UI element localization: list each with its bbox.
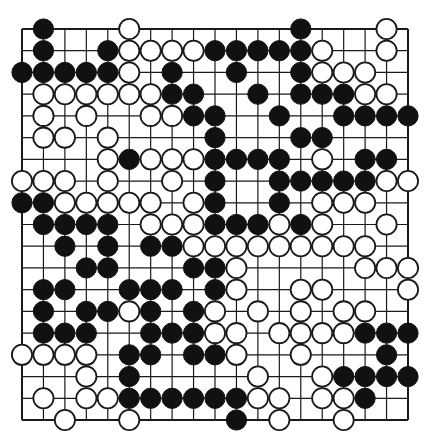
white-stone: [183, 149, 203, 169]
white-stone: [312, 280, 332, 300]
white-stone: [376, 84, 396, 104]
white-stone: [248, 236, 268, 256]
black-stone: [205, 258, 225, 278]
black-stone: [162, 280, 182, 300]
white-stone: [141, 41, 161, 61]
white-stone: [398, 258, 418, 278]
black-stone: [312, 84, 332, 104]
white-stone: [248, 301, 268, 321]
go-board[interactable]: [0, 0, 435, 443]
white-stone: [33, 84, 53, 104]
white-stone: [312, 214, 332, 234]
black-stone: [205, 214, 225, 234]
white-stone: [312, 366, 332, 386]
black-stone: [376, 106, 396, 126]
black-stone: [33, 62, 53, 82]
black-stone: [183, 345, 203, 365]
white-stone: [226, 323, 246, 343]
black-stone: [12, 62, 32, 82]
black-stone: [226, 388, 246, 408]
black-stone: [33, 193, 53, 213]
black-stone: [55, 280, 75, 300]
black-stone: [312, 171, 332, 191]
white-stone: [226, 280, 246, 300]
black-stone: [98, 214, 118, 234]
black-stone: [355, 171, 375, 191]
black-stone: [76, 214, 96, 234]
black-stone: [205, 106, 225, 126]
white-stone: [376, 258, 396, 278]
white-stone: [183, 214, 203, 234]
white-stone: [205, 323, 225, 343]
white-stone: [269, 214, 289, 234]
white-stone: [334, 388, 354, 408]
black-stone: [269, 106, 289, 126]
black-stone: [98, 258, 118, 278]
white-stone: [355, 193, 375, 213]
black-stone: [98, 62, 118, 82]
black-stone: [205, 193, 225, 213]
white-stone: [76, 106, 96, 126]
white-stone: [162, 171, 182, 191]
white-stone: [76, 193, 96, 213]
black-stone: [119, 366, 139, 386]
black-stone: [291, 84, 311, 104]
black-stone: [76, 323, 96, 343]
white-stone: [312, 323, 332, 343]
white-stone: [334, 193, 354, 213]
black-stone: [55, 214, 75, 234]
white-stone: [312, 388, 332, 408]
white-stone: [291, 301, 311, 321]
black-stone: [334, 366, 354, 386]
white-stone: [355, 62, 375, 82]
black-stone: [183, 388, 203, 408]
black-stone: [119, 280, 139, 300]
white-stone: [312, 41, 332, 61]
white-stone: [141, 106, 161, 126]
black-stone: [33, 41, 53, 61]
white-stone: [269, 236, 289, 256]
black-stone: [291, 19, 311, 39]
white-stone: [98, 84, 118, 104]
black-stone: [205, 345, 225, 365]
black-stone: [312, 127, 332, 147]
black-stone: [98, 236, 118, 256]
white-stone: [334, 62, 354, 82]
black-stone: [205, 171, 225, 191]
black-stone: [205, 41, 225, 61]
black-stone: [398, 366, 418, 386]
white-stone: [376, 41, 396, 61]
white-stone: [248, 388, 268, 408]
white-stone: [33, 388, 53, 408]
black-stone: [33, 19, 53, 39]
black-stone: [119, 388, 139, 408]
black-stone: [33, 323, 53, 343]
black-stone: [162, 84, 182, 104]
white-stone: [33, 345, 53, 365]
black-stone: [183, 301, 203, 321]
white-stone: [269, 388, 289, 408]
white-stone: [226, 236, 246, 256]
white-stone: [398, 280, 418, 300]
black-stone: [291, 62, 311, 82]
white-stone: [98, 127, 118, 147]
black-stone: [355, 106, 375, 126]
black-stone: [291, 214, 311, 234]
white-stone: [291, 323, 311, 343]
black-stone: [269, 193, 289, 213]
black-stone: [376, 366, 396, 386]
black-stone: [355, 323, 375, 343]
white-stone: [141, 214, 161, 234]
white-stone: [119, 193, 139, 213]
white-stone: [76, 388, 96, 408]
white-stone: [55, 410, 75, 430]
white-stone: [119, 301, 139, 321]
white-stone: [355, 258, 375, 278]
black-stone: [141, 323, 161, 343]
white-stone: [376, 171, 396, 191]
black-stone: [355, 388, 375, 408]
black-stone: [291, 171, 311, 191]
black-stone: [269, 171, 289, 191]
black-stone: [76, 62, 96, 82]
white-stone: [55, 345, 75, 365]
